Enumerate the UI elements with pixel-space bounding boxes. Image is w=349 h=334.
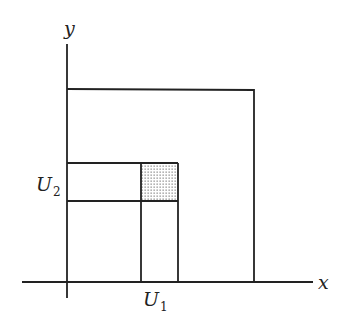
product-set-diagram: y x U 2 U 1 <box>0 0 349 334</box>
y-axis-label: y <box>63 17 75 39</box>
u1-label: U <box>143 288 160 310</box>
u2-label: U <box>36 173 53 195</box>
u1-subscript: 1 <box>160 300 168 314</box>
x-axis-label: x <box>318 271 329 293</box>
shaded-intersection <box>141 163 178 201</box>
u2-subscript: 2 <box>53 185 61 199</box>
